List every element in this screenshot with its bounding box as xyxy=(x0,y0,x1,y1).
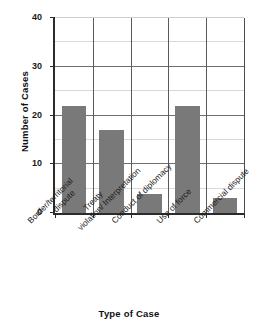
y-tick-40: 40 xyxy=(50,17,55,18)
y-tick-label-40: 40 xyxy=(32,12,42,22)
gridline-top-40 xyxy=(55,17,244,18)
y-tick-30: 30 xyxy=(50,66,55,67)
y-tick-label-20: 20 xyxy=(32,110,42,120)
vertical-gridline-3 xyxy=(168,18,169,213)
x-tick-5 xyxy=(244,213,245,218)
gridline-minor-35 xyxy=(55,41,244,42)
x-tick-2 xyxy=(131,213,132,218)
y-axis-title: Number of Cases xyxy=(19,42,30,182)
vertical-gridline-1 xyxy=(93,18,94,213)
y-tick-label-10: 10 xyxy=(32,158,42,168)
y-tick-10: 10 xyxy=(50,163,55,164)
bar-chart-figure: Number of Cases 0 10 xyxy=(0,0,258,329)
vertical-gridline-4 xyxy=(206,18,207,213)
y-tick-label-30: 30 xyxy=(32,61,42,71)
gridline-minor-25 xyxy=(55,90,244,91)
vertical-gridline-right-edge xyxy=(244,18,245,213)
x-axis-title: Type of Case xyxy=(0,308,258,319)
gridline-major-30 xyxy=(55,66,244,67)
y-tick-20: 20 xyxy=(50,115,55,116)
